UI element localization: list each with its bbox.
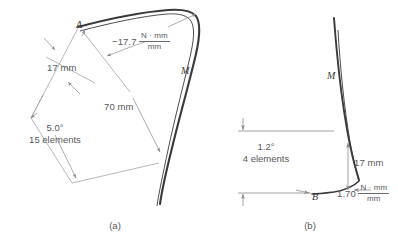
label-elements-a: 15 elements [10, 134, 100, 146]
moment-value-a-text: −17.7 [112, 36, 137, 47]
label-angle-a: 5.0° [10, 122, 100, 134]
label-point-a: A [76, 19, 82, 30]
moment-unit-denominator-a: mm [139, 42, 170, 52]
label-mesh-b: 1.2° 4 elements [226, 141, 306, 164]
moment-unit-numerator-b: N · mm [358, 183, 389, 194]
label-elements-b: 4 elements [226, 153, 306, 165]
moment-value-b-text: 1.70 [337, 188, 356, 199]
label-mesh-a: 5.0° 15 elements [10, 122, 100, 145]
caption-a: (a) [75, 220, 155, 231]
panel-b-drawing [238, 18, 371, 206]
beam-curve-outer-b [334, 18, 359, 180]
caption-b: (b) [270, 220, 350, 231]
dim-arrow-17mm-lower-a [68, 82, 80, 94]
label-moment-a: M [181, 65, 189, 76]
pointer-B-b [296, 190, 309, 193]
moment-unit-numerator-a: N · mm [139, 31, 170, 42]
moment-unit-denominator-b: mm [358, 194, 389, 204]
dim-arrow-17mm-upper-a [44, 38, 55, 50]
label-moment-value-b: 1.70N · mmmm [337, 183, 389, 204]
moment-unit-b: N · mmmm [358, 183, 389, 204]
label-angle-b: 1.2° [226, 141, 306, 153]
label-thickness-b: 17 mm [354, 157, 384, 168]
label-moment-value-a: −17.7N · mmmm [112, 31, 170, 52]
label-thickness-a: 17 mm [47, 62, 77, 73]
leader-70mm-a [133, 98, 160, 152]
leader-moment-tip-a [168, 14, 196, 27]
dim-extension-a [31, 95, 43, 118]
label-moment-b: M [327, 70, 335, 81]
figure-container: A −17.7N · mmmm 17 mm 70 mm 5.0° 15 elem… [0, 0, 398, 244]
label-point-b: B [312, 191, 318, 202]
label-length-a: 70 mm [104, 101, 134, 112]
pointer-A-a [82, 30, 85, 36]
dim-arrow-left-a [31, 113, 37, 118]
construction-line-bottom-a [72, 163, 159, 183]
moment-unit-a: N · mmmm [139, 31, 170, 52]
